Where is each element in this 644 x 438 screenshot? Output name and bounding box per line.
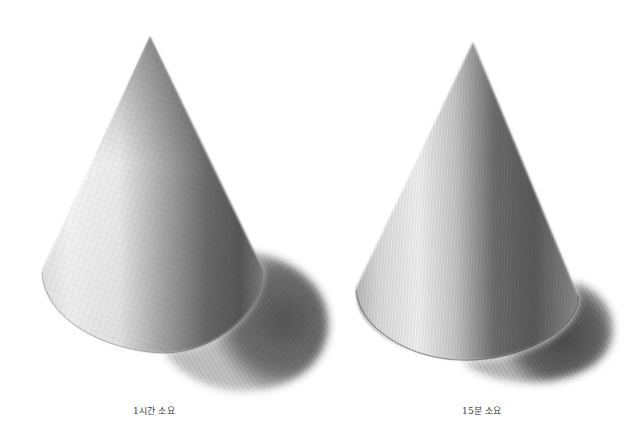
caption-left: 1시간 소요 — [133, 404, 175, 417]
illustration-canvas — [0, 0, 644, 438]
cone-sketch-left — [42, 36, 328, 391]
cone-sketch-right — [356, 42, 613, 382]
caption-right: 15분 소요 — [462, 404, 502, 417]
